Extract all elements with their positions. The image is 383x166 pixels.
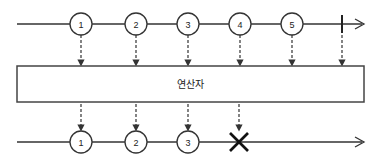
svg-text:3: 3 — [185, 138, 190, 148]
input-marble-3: 3 — [177, 13, 199, 35]
input-to-operator-arrows — [81, 35, 342, 63]
output-marble-1: 1 — [70, 131, 92, 153]
input-marble-1: 1 — [70, 13, 92, 35]
svg-text:2: 2 — [133, 20, 138, 30]
svg-text:4: 4 — [237, 20, 242, 30]
operator-box: 연산자 — [17, 66, 364, 102]
svg-text:5: 5 — [289, 20, 294, 30]
svg-text:2: 2 — [133, 138, 138, 148]
svg-text:3: 3 — [185, 20, 190, 30]
output-marble-3: 3 — [177, 131, 199, 153]
svg-text:1: 1 — [78, 138, 83, 148]
input-marble-2: 2 — [125, 13, 147, 35]
operator-to-output-arrows — [81, 104, 239, 128]
operator-label: 연산자 — [177, 79, 204, 90]
marble-diagram: 1 2 3 4 5 연산자 1 2 3 — [0, 0, 383, 166]
svg-text:1: 1 — [78, 20, 83, 30]
input-marble-4: 4 — [229, 13, 251, 35]
input-marble-5: 5 — [281, 13, 303, 35]
output-marble-2: 2 — [125, 131, 147, 153]
